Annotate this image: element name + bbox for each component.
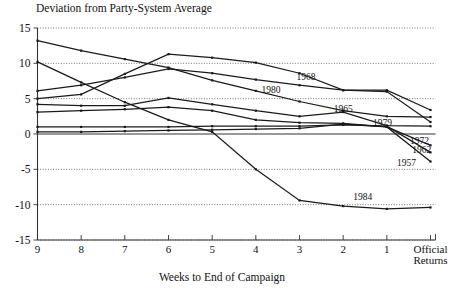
data-point [36,90,38,92]
data-point [429,121,431,123]
data-point [124,73,126,75]
data-point [298,84,300,86]
data-point [429,125,431,127]
data-point [211,125,213,127]
chart-title: Deviation from Party-System Average [36,2,212,15]
data-point [80,93,82,95]
data-point [386,91,388,93]
data-point [429,116,431,118]
data-point [255,119,257,121]
data-point [342,205,344,207]
data-point [211,129,213,131]
data-point [80,81,82,83]
data-point [124,58,126,60]
x-axis-label: Weeks to End of Campaign [159,271,285,284]
data-point [36,98,38,100]
y-tick-label: 10 [19,57,31,69]
y-tick-label: -10 [15,199,31,211]
x-tick-label: 6 [166,243,172,255]
data-point [124,76,126,78]
data-point [429,206,431,208]
data-point [211,110,213,112]
data-point [80,131,82,133]
deviation-line-chart: 151050-5-10-15 987654321OfficialReturns … [0,0,467,293]
data-point [255,125,257,127]
x-tick-label-official-returns: OfficialReturns [413,243,447,266]
x-tick-label: 3 [297,243,303,255]
series-label-1957: 1957 [397,158,416,168]
y-tick-label: -5 [21,163,31,175]
data-point [124,101,126,103]
x-tick-labels-group: 987654321OfficialReturns [35,243,448,266]
data-point [167,106,169,108]
series-label-1972: 1972 [410,136,429,146]
data-point [167,66,169,68]
y-tick-label: 15 [19,22,31,34]
x-tick-label: 7 [122,243,128,255]
data-point [80,126,82,128]
x-tick-label: 8 [78,243,84,255]
series-label-1984: 1984 [353,192,372,202]
data-point [167,119,169,121]
data-point [124,126,126,128]
chart-figure: 151050-5-10-15 987654321OfficialReturns … [0,0,467,293]
y-tick-label: 5 [25,93,31,105]
data-point [36,61,38,63]
data-point [36,40,38,42]
data-point [255,78,257,80]
data-point [211,72,213,74]
data-point [342,89,344,91]
data-point [80,84,82,86]
data-point [255,90,257,92]
series-label-1968: 1968 [297,72,316,82]
data-point [211,79,213,81]
series-line-1957 [38,124,431,161]
data-point [211,131,213,133]
x-tick-label: 9 [35,243,41,255]
data-point [167,126,169,128]
y-tick-labels-group: 151050-5-10-15 [15,22,31,246]
series-label-1965: 1965 [334,104,353,114]
data-point [255,168,257,170]
series-label-1980: 1980 [262,85,281,95]
x-tick-label: 2 [340,243,346,255]
data-point [255,110,257,112]
data-point [80,105,82,107]
x-tick-label: 1 [384,243,390,255]
data-point [298,199,300,201]
data-point [342,123,344,125]
y-tick-label: -15 [15,234,31,246]
data-point [298,100,300,102]
series-line-1979 [38,98,431,126]
y-tick-label: 0 [25,128,31,140]
data-point [211,103,213,105]
data-point [167,53,169,55]
data-point [298,127,300,129]
data-point [298,122,300,124]
data-point [298,115,300,117]
data-point [80,50,82,52]
x-tickmarks-group [38,235,431,240]
data-point [36,126,38,128]
data-point [255,62,257,64]
series-label-1962: 1962 [412,145,431,155]
data-point [211,57,213,59]
data-point [429,160,431,162]
data-point [124,108,126,110]
data-point [386,208,388,210]
series-label-1979: 1979 [373,118,392,128]
data-point [124,130,126,132]
data-point [429,109,431,111]
data-point [124,105,126,107]
data-point [298,125,300,127]
series-line-1984 [38,62,431,209]
data-point [167,129,169,131]
data-point [80,110,82,112]
x-tick-label: 4 [253,243,259,255]
x-tick-label: 5 [209,243,215,255]
data-point [255,128,257,130]
data-point [36,131,38,133]
data-point [36,103,38,105]
data-point [167,97,169,99]
data-point [36,111,38,113]
